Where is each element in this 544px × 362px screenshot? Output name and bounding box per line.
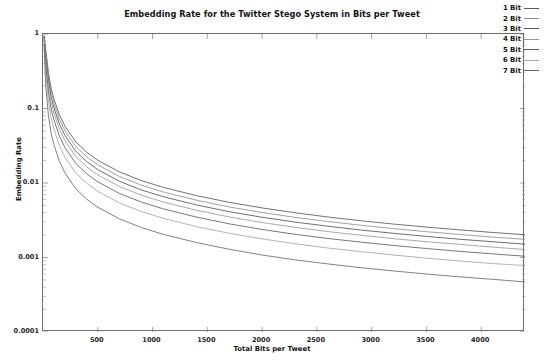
legend-item-label: 5 Bit	[503, 46, 521, 54]
legend-item-3-bit[interactable]: 3 Bit	[503, 24, 539, 34]
x-axis-label: Total Bits per Tweet	[0, 345, 544, 353]
legend-color-swatch	[524, 18, 539, 19]
legend-color-swatch	[524, 39, 539, 40]
legend-item-1-bit[interactable]: 1 Bit	[503, 3, 539, 13]
series-line-7-bit	[44, 45, 525, 282]
series-line-3-bit	[44, 37, 525, 244]
chart-figure: Embedding Rate for the Twitter Stego Sys…	[0, 0, 544, 362]
legend-item-2-bit[interactable]: 2 Bit	[503, 13, 539, 23]
y-tick-label: 0.0001	[14, 327, 39, 335]
y-tick-label: 1	[34, 29, 39, 37]
series-line-1-bit	[44, 36, 525, 235]
legend-item-label: 4 Bit	[503, 35, 521, 43]
plot-lines-svg	[43, 34, 525, 332]
legend-item-7-bit[interactable]: 7 Bit	[503, 65, 539, 75]
y-tick-label: 0.001	[18, 253, 39, 261]
x-tick-label: 2000	[252, 336, 270, 344]
legend-item-label: 2 Bit	[503, 15, 521, 23]
x-tick-label: 4000	[471, 336, 489, 344]
x-tick-label: 500	[90, 336, 104, 344]
x-tick-label: 1500	[197, 336, 215, 344]
series-line-6-bit	[44, 41, 525, 265]
legend-color-swatch	[524, 70, 539, 71]
legend-item-label: 1 Bit	[503, 4, 521, 12]
x-tick-label: 2500	[307, 336, 325, 344]
legend-color-swatch	[524, 49, 539, 50]
legend-item-4-bit[interactable]: 4 Bit	[503, 34, 539, 44]
chart-title: Embedding Rate for the Twitter Stego Sys…	[0, 9, 544, 19]
legend-item-label: 3 Bit	[503, 25, 521, 33]
plot-area	[42, 33, 524, 331]
legend-color-swatch	[524, 60, 539, 61]
x-tick-label: 3500	[416, 336, 434, 344]
legend-item-6-bit[interactable]: 6 Bit	[503, 55, 539, 65]
series-line-5-bit	[44, 39, 525, 256]
legend-color-swatch	[524, 28, 539, 29]
y-tick-label: 0.01	[23, 178, 39, 186]
chart-legend: 1 Bit2 Bit3 Bit4 Bit5 Bit6 Bit7 Bit	[503, 3, 539, 76]
x-tick-label: 1000	[142, 336, 160, 344]
series-line-4-bit	[44, 38, 525, 249]
x-tick-label: 3000	[361, 336, 379, 344]
series-line-2-bit	[44, 36, 525, 239]
legend-item-label: 7 Bit	[503, 67, 521, 75]
legend-color-swatch	[524, 8, 539, 9]
y-axis-label: Embedding Rate	[15, 109, 23, 229]
legend-item-label: 6 Bit	[503, 56, 521, 64]
y-tick-label: 0.1	[27, 104, 39, 112]
legend-item-5-bit[interactable]: 5 Bit	[503, 45, 539, 55]
